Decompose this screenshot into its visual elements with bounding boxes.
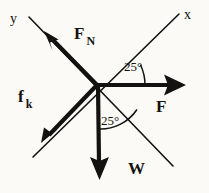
x-axis-label: x [184, 8, 191, 22]
normal-force-label-subscript: N [86, 34, 95, 48]
applied-force-label: F [156, 98, 166, 115]
normal-force-label: FN [74, 25, 93, 42]
weight-label: W [128, 160, 145, 177]
kinetic-friction-label-subscript: k [26, 97, 33, 111]
kinetic-friction-label: fk [18, 88, 30, 105]
applied-force-vector [97, 75, 186, 96]
angle-label-weight-y-axis: 25° [101, 114, 119, 127]
kinetic-friction-label-symbol: f [18, 87, 24, 106]
y-axis-label: y [10, 12, 17, 26]
angle-label-force-x-axis: 25° [124, 60, 142, 73]
normal-force-label-symbol: F [74, 24, 84, 43]
force-diagram-figure: y x FN fk F W 25° 25° [0, 0, 209, 193]
kinetic-friction-vector [41, 85, 97, 143]
